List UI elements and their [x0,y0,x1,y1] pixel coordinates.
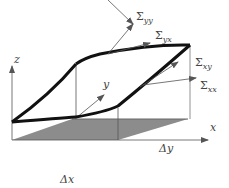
stress-arrow-yy [108,0,133,24]
base-area [12,119,188,140]
dx-label: Δx [59,173,75,186]
stress-label-xy: Σxy [195,56,212,71]
subscript: yy [143,16,154,25]
x-axis-label: x [210,121,217,134]
subscript: xx [208,85,218,94]
dy-label: Δy [158,142,174,155]
surface-edge-left [12,64,76,122]
y-axis-label: y [102,78,110,91]
stress-label-xx: Σxx [200,79,217,94]
stress-label-yx: Σyx [155,29,172,44]
subscript: xy [203,62,213,71]
stress-element-diagram: z x y Δx Δy Σyy Σyx Σxy Σxx [0,0,229,188]
stress-label-yy: Σyy [136,10,153,25]
subscript: yx [162,35,173,44]
z-axis-label: z [13,53,20,66]
